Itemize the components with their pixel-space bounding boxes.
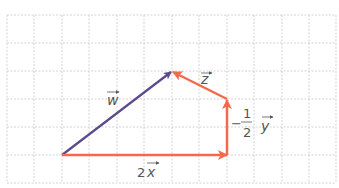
vector-w [62,72,171,155]
vector-diagram: w z 2 x − 1 2 y [0,0,339,188]
svg-text:w: w [107,92,119,108]
svg-text:y: y [260,118,270,134]
label-neg-half-y: − 1 2 y [231,106,273,140]
svg-text:x: x [146,164,156,180]
label-2x: 2 x [137,163,159,180]
svg-text:2: 2 [137,165,145,180]
grid [7,15,336,183]
label-w: w [107,92,119,108]
svg-text:−: − [231,116,242,131]
svg-text:2: 2 [243,125,251,140]
label-z: z [200,71,212,87]
svg-text:1: 1 [243,106,251,121]
vector-z [173,72,227,99]
